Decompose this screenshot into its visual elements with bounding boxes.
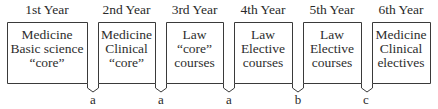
year-box-2-content: Medicine Clinical “core” [98, 28, 155, 70]
box-line: “core” [29, 56, 64, 70]
box-line: courses [243, 56, 284, 70]
year-box-6-content: Medicine Clinical electives [372, 28, 430, 70]
box-line: Elective [310, 42, 354, 56]
year-label-4: 4th Year [224, 2, 302, 18]
year-label-3: 3rd Year [156, 2, 233, 18]
transition-label-4: b [292, 93, 304, 107]
box-line: Elective [241, 42, 285, 56]
box-line: Law [183, 28, 207, 42]
box-line: Basic science [10, 42, 83, 56]
box-line: courses [174, 56, 215, 70]
box-line: Medicine [376, 28, 427, 42]
box-line: Medicine [101, 28, 152, 42]
box-line: Medicine [22, 28, 73, 42]
box-line: “core” [177, 42, 212, 56]
box-line: Clinical [380, 42, 423, 56]
year-box-1-content: Medicine Basic science “core” [7, 28, 87, 70]
transition-label-2: a [155, 93, 167, 107]
box-line: electives [377, 56, 424, 70]
box-line: “core” [109, 56, 144, 70]
transition-label-1: a [87, 93, 99, 107]
year-label-1: 1st Year [0, 2, 97, 18]
box-line: courses [312, 56, 353, 70]
year-box-5-content: Law Elective courses [303, 28, 361, 70]
year-box-4-content: Law Elective courses [234, 28, 292, 70]
transition-label-3: a [223, 93, 235, 107]
year-label-5: 5th Year [293, 2, 371, 18]
transition-label-5: c [360, 93, 372, 107]
year-label-2: 2nd Year [88, 2, 165, 18]
box-line: Law [251, 28, 275, 42]
year-box-3-content: Law “core” courses [166, 28, 223, 70]
year-label-6: 6th Year [362, 2, 438, 18]
curriculum-timeline-diagram: 1st Year 2nd Year 3rd Year 4th Year 5th … [0, 0, 438, 109]
box-line: Clinical [105, 42, 148, 56]
box-line: Law [320, 28, 344, 42]
